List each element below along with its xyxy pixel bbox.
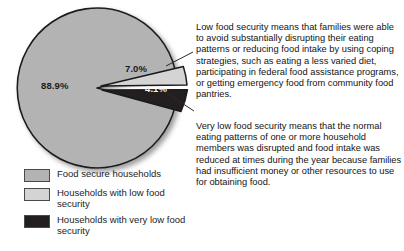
note-very-low-food-security: Very low food security means that the no…: [196, 121, 402, 188]
legend-item-food-secure: Food secure households: [24, 168, 194, 182]
slice-label-food-secure: 88.9%: [41, 80, 68, 91]
legend-swatch-low-food-security: [24, 188, 50, 201]
legend: Food secure households Households with l…: [24, 168, 194, 241]
legend-swatch-food-secure: [24, 169, 50, 182]
legend-label-food-secure: Food secure households: [57, 168, 161, 179]
legend-swatch-very-low-food-security: [24, 215, 50, 228]
legend-item-low-food-security: Households with low food security: [24, 187, 194, 209]
slice-label-very-low-food-security: 4.1%: [145, 83, 167, 94]
legend-label-low-food-security: Households with low food security: [57, 187, 194, 209]
pie-chart: 88.9% 7.0% 4.1%: [13, 4, 195, 170]
note-low-food-security: Low food security means that families we…: [196, 22, 402, 100]
slice-label-low-food-security: 7.0%: [125, 63, 147, 74]
legend-label-very-low-food-security: Households with very low food security: [57, 214, 194, 236]
legend-item-very-low-food-security: Households with very low food security: [24, 214, 194, 236]
